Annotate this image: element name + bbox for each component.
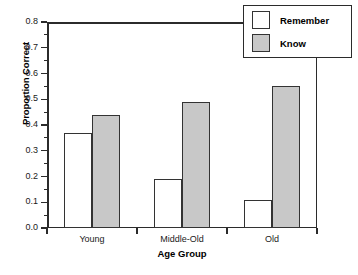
bar-old-remember — [244, 200, 272, 228]
y-axis-tick-label: 0.3 — [0, 145, 38, 155]
x-axis-title: Age Group — [47, 248, 317, 259]
bar-young-know — [92, 115, 120, 228]
bar-middle-old-know — [182, 102, 210, 228]
plot-frame-left — [47, 22, 49, 228]
legend-entry-remember: Remember — [252, 10, 329, 30]
x-axis-category-label: Young — [47, 234, 137, 244]
y-axis-title: Proportion Correct — [20, 14, 31, 154]
legend-swatch-remember — [252, 11, 270, 29]
bar-middle-old-remember — [154, 179, 182, 228]
x-axis-tick — [316, 228, 317, 234]
legend-box: Remember Know — [243, 5, 352, 58]
x-axis-category-label: Middle-Old — [137, 234, 227, 244]
legend-label-remember: Remember — [280, 15, 329, 26]
y-axis-tick-label: 0.8 — [0, 16, 38, 26]
y-axis-tick-label: 0.1 — [0, 196, 38, 206]
x-axis-tick — [226, 228, 227, 234]
y-axis-tick-label: 0.7 — [0, 42, 38, 52]
y-axis-tick-label: 0.5 — [0, 93, 38, 103]
legend-entry-know: Know — [252, 33, 306, 53]
x-axis-tick — [46, 228, 47, 234]
bar-chart-figure: Proportion Correct 0.00.10.20.30.40.50.6… — [0, 0, 358, 275]
x-axis-tick — [136, 228, 137, 234]
x-axis-category-label: Old — [227, 234, 317, 244]
y-axis-tick-label: 0.0 — [0, 222, 38, 232]
bar-young-remember — [64, 133, 92, 228]
y-axis-tick-label: 0.4 — [0, 119, 38, 129]
legend-label-know: Know — [280, 38, 306, 49]
y-axis-tick-label: 0.2 — [0, 171, 38, 181]
legend-swatch-know — [252, 34, 270, 52]
bar-old-know — [272, 86, 300, 228]
y-axis-tick-label: 0.6 — [0, 68, 38, 78]
